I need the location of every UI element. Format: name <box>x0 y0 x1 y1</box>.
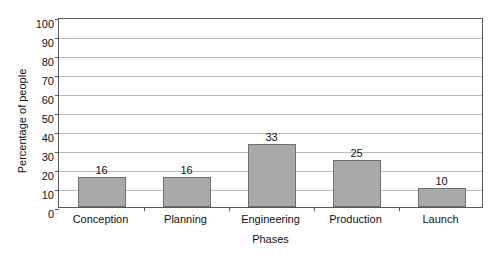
y-axis-tick <box>55 190 59 191</box>
x-axis-tick <box>399 207 400 211</box>
bar-value-label: 25 <box>327 147 387 159</box>
y-axis-tick-label: 20 <box>24 170 54 182</box>
gridline <box>59 95 482 96</box>
bar-value-label: 10 <box>412 175 472 187</box>
y-axis-tick-labels: 1009080706050403020100 <box>24 12 54 216</box>
y-axis-tick-label: 30 <box>24 151 54 163</box>
y-axis-tick <box>55 152 59 153</box>
bar-value-label: 16 <box>157 164 217 176</box>
bar <box>248 144 296 207</box>
y-axis-tick-label: 60 <box>24 94 54 106</box>
y-axis-tick-label: 80 <box>24 56 54 68</box>
bar <box>418 188 466 207</box>
x-axis-title: Phases <box>58 232 483 246</box>
y-axis-tick <box>55 19 59 20</box>
y-axis-tick-label: 70 <box>24 75 54 87</box>
x-axis-tick <box>314 207 315 211</box>
bar <box>333 160 381 208</box>
bar-value-label: 16 <box>72 164 132 176</box>
y-axis-tick <box>55 38 59 39</box>
gridline <box>59 76 482 77</box>
bar-chart: Percentage of people 1009080706050403020… <box>0 0 500 258</box>
y-axis-tick <box>55 133 59 134</box>
x-axis-tick <box>144 207 145 211</box>
y-axis-tick <box>55 114 59 115</box>
plot-area: 1616332510 <box>58 18 483 208</box>
y-axis-tick-label: 100 <box>24 18 54 30</box>
bar-value-label: 33 <box>242 131 302 143</box>
y-axis-tick-label: 40 <box>24 132 54 144</box>
gridline <box>59 57 482 58</box>
y-axis-tick <box>55 76 59 77</box>
gridline <box>59 114 482 115</box>
y-axis-tick <box>55 171 59 172</box>
x-axis-tick-label: Conception <box>58 212 143 226</box>
y-axis-tick <box>55 57 59 58</box>
y-axis-tick <box>55 95 59 96</box>
y-axis-tick-label: 90 <box>24 37 54 49</box>
x-axis-tick-label: Production <box>313 212 398 226</box>
x-axis-tick <box>229 207 230 211</box>
x-axis-tick-labels: ConceptionPlanningEngineeringProductionL… <box>58 212 483 228</box>
y-axis-tick-label: 10 <box>24 189 54 201</box>
x-axis-tick-label: Engineering <box>228 212 313 226</box>
x-axis-tick-label: Launch <box>398 212 483 226</box>
gridline <box>59 38 482 39</box>
y-axis-tick-label: 50 <box>24 113 54 125</box>
bar <box>78 177 126 207</box>
y-axis-tick-label: 0 <box>24 208 54 220</box>
y-axis-tick <box>55 209 59 210</box>
bar <box>163 177 211 207</box>
x-axis-tick-label: Planning <box>143 212 228 226</box>
